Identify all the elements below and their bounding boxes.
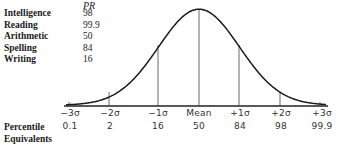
normal-curve [66,9,326,105]
mean-label: Mean [186,108,211,118]
percentile-label-line2: Equivalents [4,133,52,145]
sigma-label: +1σ [230,108,250,118]
sigma-label: −3σ [60,108,80,118]
percentile-value: 2 [107,121,113,131]
percentile-value: 16 [152,121,164,131]
percentile-equivalents-label: Percentile Equivalents [4,121,52,145]
percentile-value: 50 [193,121,205,131]
sigma-label: −2σ [100,108,120,118]
percentile-value: 84 [234,121,246,131]
sigma-label: +3σ [312,108,332,118]
percentile-label-line1: Percentile [4,121,52,133]
sigma-label: +2σ [271,108,291,118]
sigma-label: −1σ [148,108,168,118]
percentile-value: 99.9 [312,121,333,131]
percentile-value: 0.1 [63,121,78,131]
percentile-value: 98 [275,121,287,131]
